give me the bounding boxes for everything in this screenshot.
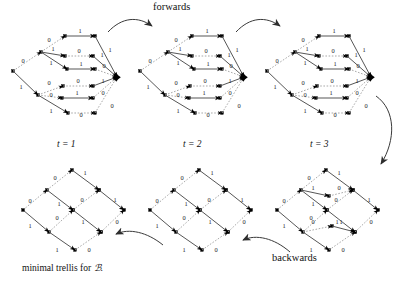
trellis-edge-zero: [101, 210, 124, 232]
edge-label: 1: [305, 45, 308, 52]
caption-suffix: .: [101, 263, 103, 273]
edge-label: 0: [87, 246, 90, 253]
edge-label: 0: [341, 246, 344, 253]
edge-label: 1: [206, 60, 209, 67]
edge-label: 0: [28, 197, 31, 204]
edge-label: 1: [335, 218, 338, 225]
edge-label: 1: [337, 169, 340, 176]
edge-label: 0: [275, 57, 278, 64]
trellis-edge-zero: [95, 77, 117, 113]
edge-label: 1: [329, 89, 332, 96]
edge-label: 0: [303, 91, 306, 98]
trellis-edge-zero: [73, 190, 99, 210]
trellis-node: [377, 209, 380, 212]
trellis-edge-one: [303, 232, 329, 250]
trellis-top-3: 01011001101010110100: [266, 27, 375, 118]
arrow-forwards-2: [236, 19, 280, 32]
caption-symbol: ℬ: [94, 263, 101, 273]
arrow-backwards-1: [243, 237, 290, 252]
trellis-bottom-1: 010101101010: [22, 169, 126, 253]
edge-label: 0: [174, 36, 177, 43]
edge-label: 0: [207, 196, 210, 203]
trellis-merge-node: [113, 73, 120, 82]
edge-label: 1: [100, 51, 103, 58]
trellis-edge-one: [13, 71, 38, 95]
edge-label: 0: [180, 174, 183, 181]
trellis-edge-zero: [277, 190, 301, 210]
trellis-edge-zero: [174, 170, 199, 190]
trellis-edge-one: [226, 190, 251, 210]
trellis-edge-one: [49, 232, 75, 250]
edge-label: 1: [210, 169, 213, 176]
edge-label: 0: [176, 91, 179, 98]
edge-label: 0: [55, 214, 58, 221]
trellis-edge-one: [267, 71, 292, 95]
edge-label: 0: [356, 62, 359, 69]
caption-prefix: minimal trellis for: [22, 263, 91, 273]
edge-label: 0: [237, 102, 240, 109]
edge-label: 1: [367, 196, 370, 203]
edge-label: 0: [242, 218, 245, 225]
edge-label: 1: [79, 60, 82, 67]
edge-label: 1: [208, 218, 211, 225]
flow-arrows: [108, 19, 392, 252]
trellis-edge-one: [277, 210, 303, 232]
trellis-edge-zero: [303, 210, 327, 232]
edge-label: 0: [80, 196, 83, 203]
edge-label: 0: [53, 174, 56, 181]
stage-label-t2: t = 2: [183, 139, 202, 149]
edge-label: 1: [311, 200, 314, 207]
trellis-node: [123, 209, 126, 212]
trellis-edge-one: [140, 71, 165, 95]
edge-label: 1: [205, 27, 208, 34]
edge-label: 1: [101, 77, 104, 84]
edge-label: 1: [19, 83, 22, 90]
edge-label: 0: [115, 218, 118, 225]
trellis-edge-one: [73, 210, 101, 232]
edge-label: 0: [101, 89, 104, 96]
trellis-edge-zero: [222, 77, 244, 113]
edge-label: 1: [202, 89, 205, 96]
edge-label: 1: [176, 59, 179, 66]
forwards-label: forwards: [153, 1, 190, 12]
trellis-edge-one: [222, 36, 244, 77]
trellis-edge-zero: [220, 77, 244, 98]
edge-label: 1: [81, 218, 84, 225]
edge-label: 0: [282, 197, 285, 204]
edge-label: 0: [369, 218, 372, 225]
trellis-edge-one: [95, 36, 117, 77]
edge-label: 0: [110, 102, 113, 109]
edge-label: 0: [182, 214, 185, 221]
edge-label: 1: [273, 83, 276, 90]
trellis-merge-node: [240, 73, 247, 82]
arrow-backwards-2: [116, 231, 163, 245]
edge-label: 0: [21, 57, 24, 64]
edge-label: 1: [108, 46, 111, 53]
backwards-label: backwards: [272, 252, 317, 263]
trellis-edge-one: [349, 36, 371, 77]
trellis-bottom-2: 010101101010: [149, 169, 253, 253]
edge-label: 0: [77, 47, 80, 54]
arrow-forwards-1: [108, 19, 152, 32]
edge-label: 0: [148, 57, 151, 64]
edge-label: 1: [355, 77, 358, 84]
edge-label: 1: [311, 184, 314, 191]
edge-label: 0: [307, 174, 310, 181]
edge-label: 1: [227, 51, 230, 58]
trellis-edge-zero: [23, 190, 47, 210]
trellis-edge-zero: [329, 190, 353, 196]
trellis-edge-zero: [150, 190, 174, 210]
trellis-edge-zero: [47, 170, 72, 190]
edge-label: 1: [55, 246, 58, 253]
edge-label: 1: [28, 222, 31, 229]
trellis-edge-one: [347, 77, 371, 86]
stage-label-t1: t = 1: [57, 139, 76, 149]
edge-label: 1: [49, 107, 52, 114]
edge-label: 0: [174, 79, 177, 86]
trellis-edge-zero: [228, 210, 251, 232]
trellis-edge-zero: [140, 52, 168, 71]
edge-label: 1: [78, 27, 81, 34]
trellis-edge-zero: [355, 210, 378, 232]
edge-label: 1: [333, 60, 336, 67]
trellis-merge-node: [367, 73, 374, 82]
